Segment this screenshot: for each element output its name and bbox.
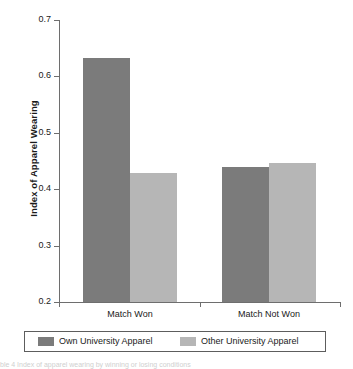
y-tick-label: 0.5 [38, 127, 51, 137]
bar [222, 167, 269, 302]
bar [269, 163, 316, 302]
x-tick-label: Match Won [70, 309, 190, 319]
legend-label-other: Other University Apparel [201, 336, 299, 346]
y-axis-line [59, 20, 60, 303]
y-tick: 0.6 [54, 76, 59, 77]
legend-swatch-other [180, 337, 196, 346]
x-tick-label: Match Not Won [209, 309, 329, 319]
y-tick-label: 0.2 [38, 296, 51, 306]
bar [130, 173, 177, 302]
legend-item-other: Other University Apparel [180, 336, 299, 346]
y-tick-label: 0.4 [38, 183, 51, 193]
y-axis-title: Index of Apparel Wearing [28, 34, 39, 284]
x-tick [200, 302, 201, 307]
y-tick: 0.7 [54, 20, 59, 21]
y-tick-label: 0.6 [38, 70, 51, 80]
legend-item-own: Own University Apparel [38, 336, 153, 346]
caption-fragment: ble 4 Index of apparel wearing by winnin… [0, 360, 353, 369]
bar-chart-figure: Index of Apparel Wearing 0.20.30.40.50.6… [0, 0, 353, 369]
y-tick: 0.4 [54, 189, 59, 190]
x-tick [59, 302, 60, 307]
chart-legend: Own University Apparel Other University … [24, 331, 326, 352]
legend-swatch-own [38, 337, 54, 346]
y-tick: 0.3 [54, 246, 59, 247]
y-tick-label: 0.7 [38, 14, 51, 24]
plot-area: 0.20.30.40.50.60.7 Match WonMatch Not Wo… [59, 20, 340, 302]
x-tick [340, 302, 341, 307]
legend-label-own: Own University Apparel [59, 336, 153, 346]
y-tick-label: 0.3 [38, 240, 51, 250]
y-tick: 0.5 [54, 133, 59, 134]
bar [83, 58, 130, 302]
